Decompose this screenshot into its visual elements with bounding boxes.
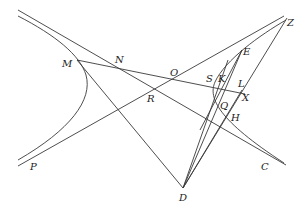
label-N: N: [115, 55, 124, 65]
label-Z: Z: [287, 18, 294, 28]
label-Q: Q: [220, 101, 228, 111]
label-C: C: [261, 162, 269, 172]
label-M: M: [62, 59, 72, 69]
hyperbola-left-branch: [18, 16, 87, 160]
label-X: X: [242, 93, 249, 103]
label-E: E: [243, 47, 250, 57]
label-O: O: [170, 68, 178, 78]
label-S: S: [206, 74, 213, 84]
asymptote-line-2: [18, 16, 284, 166]
label-H: H: [231, 113, 240, 123]
asymptote-line-1: [18, 10, 286, 165]
label-R: R: [147, 94, 155, 104]
label-D: D: [179, 193, 187, 203]
label-P: P: [30, 162, 37, 172]
diagram-canvas: [0, 0, 306, 211]
label-K: K: [218, 74, 225, 84]
label-L: L: [238, 79, 245, 89]
hyperbola-diagram: M N O R S K L E Z X Q H P C D: [0, 0, 306, 211]
